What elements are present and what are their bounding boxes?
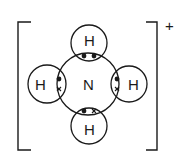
ammonium-ion-diagram: + N H H H H (0, 0, 182, 155)
hydrogen-symbol-left: H (35, 76, 46, 93)
left-bracket (18, 22, 31, 150)
hydrogen-shell-left (28, 65, 66, 103)
electron-dot (57, 77, 62, 82)
charge-label: + (165, 17, 174, 34)
electron-dot (92, 54, 97, 59)
electron-cross (92, 109, 96, 113)
hydrogen-symbol-top: H (84, 32, 95, 49)
hydrogen-symbol-bottom: H (84, 121, 95, 138)
hydrogen-symbol-right: H (128, 76, 139, 93)
nitrogen-symbol: N (83, 76, 94, 93)
right-bracket (146, 22, 157, 150)
electron-dot (82, 109, 87, 114)
electron-dot (82, 54, 87, 59)
electron-dot (115, 77, 120, 82)
